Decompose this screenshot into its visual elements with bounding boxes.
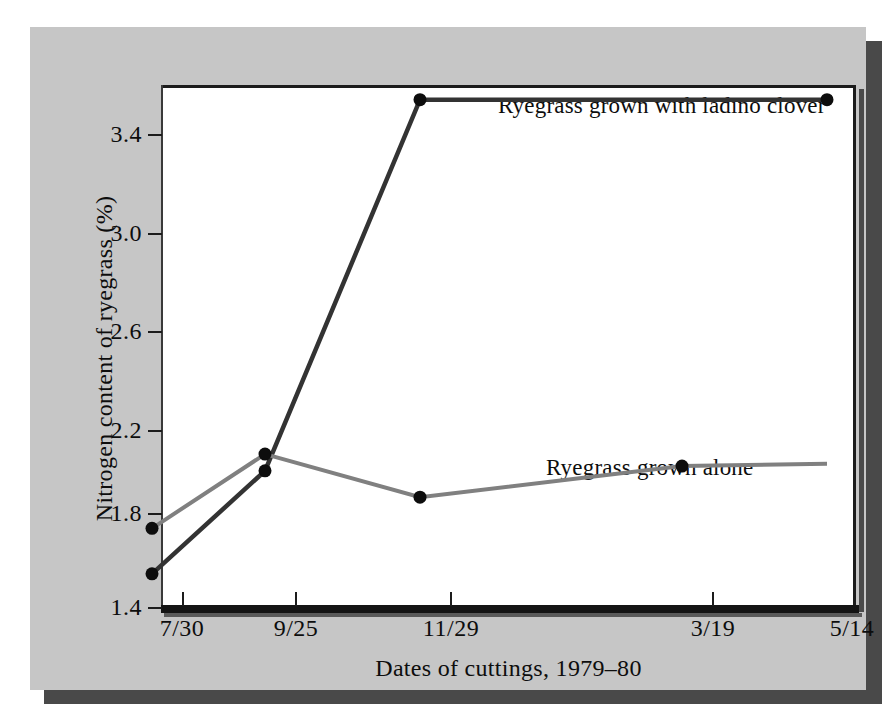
x-tick-mark — [182, 592, 184, 606]
x-axis-title: Dates of cuttings, 1979–80 — [161, 655, 856, 682]
series-label-ryegrass-alone: Ryegrass grown alone — [546, 455, 753, 481]
x-tick-mark — [450, 592, 452, 606]
figure-card: 1.4 1.8 2.2 2.6 3.0 3.4 7/30 9/25 11/29 … — [30, 27, 866, 690]
plot-frame-right-shadow — [859, 89, 864, 612]
plot-frame — [161, 85, 856, 608]
y-tick-mark — [148, 513, 162, 515]
x-axis-line — [161, 605, 859, 613]
x-axis-shadow — [164, 613, 862, 617]
y-axis-line — [161, 85, 163, 607]
y-axis-title: Nitrogen content of ryegrass (%) — [91, 149, 118, 569]
y-tick-label: 3.4 — [72, 121, 142, 148]
x-tick-label: 11/29 — [423, 615, 479, 642]
y-tick-mark — [148, 430, 162, 432]
figure-root: 1.4 1.8 2.2 2.6 3.0 3.4 7/30 9/25 11/29 … — [0, 0, 896, 721]
y-tick-mark — [148, 233, 162, 235]
y-tick-mark — [148, 134, 162, 136]
series-label-ladino-clover: Ryegrass grown with ladino clover — [498, 93, 826, 119]
x-tick-label: 3/19 — [691, 615, 736, 642]
x-tick-label: 5/14 — [830, 615, 875, 642]
x-tick-mark — [712, 592, 714, 606]
x-tick-label: 7/30 — [160, 615, 205, 642]
y-tick-label: 1.4 — [72, 594, 142, 621]
y-tick-mark — [148, 331, 162, 333]
y-tick-mark — [148, 607, 162, 609]
x-tick-label: 9/25 — [274, 615, 319, 642]
x-tick-mark — [295, 592, 297, 606]
